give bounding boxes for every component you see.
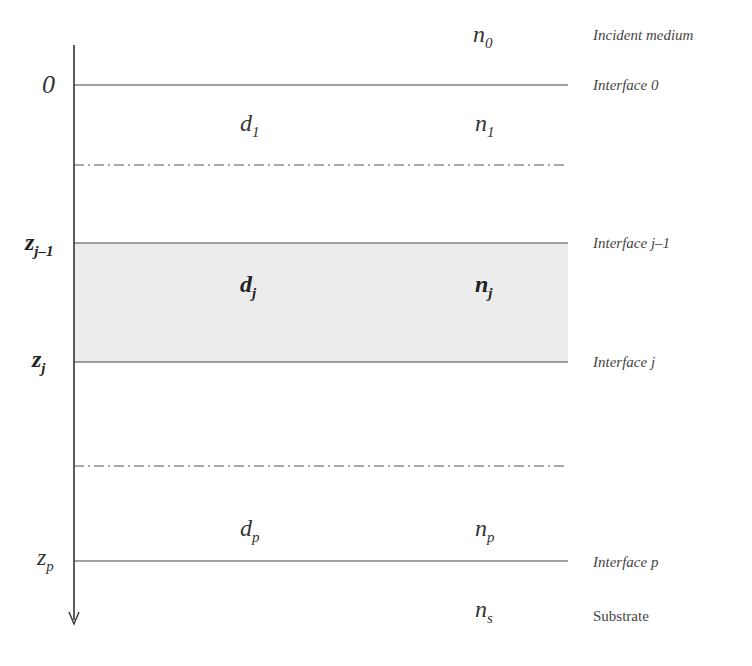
interface-0-label: Interface 0 — [593, 78, 658, 93]
dp-label: dp — [240, 516, 260, 540]
incident-medium-label: Incident medium — [593, 28, 693, 43]
np-label: np — [475, 516, 495, 540]
n-base: n — [475, 515, 487, 541]
z-sub: j — [41, 360, 45, 376]
d-base: d — [240, 515, 252, 541]
n-sub: 0 — [485, 35, 493, 51]
z-zero-label: 0 — [42, 72, 55, 98]
z-j-label: zj — [32, 347, 46, 371]
n0-label: n0 — [473, 22, 493, 46]
z-p-label: zp — [37, 545, 54, 569]
d-base: d — [240, 271, 252, 297]
n-base: n — [473, 21, 485, 47]
n-base: n — [475, 271, 488, 297]
interface-p-label: Interface p — [593, 555, 658, 570]
interface-j-label: Interface j — [593, 355, 655, 370]
z-j-minus-1-label: zj–1 — [25, 230, 54, 254]
z-base: z — [25, 229, 34, 255]
z-base: z — [32, 346, 41, 372]
n-base: n — [475, 596, 487, 622]
d-sub: j — [252, 285, 256, 301]
n-sub: 1 — [487, 124, 495, 140]
n-sub: j — [488, 285, 492, 301]
ns-label: ns — [475, 597, 493, 621]
interface-j-1-label: Interface j–1 — [593, 236, 670, 251]
z-sub: p — [46, 558, 54, 574]
dj-label: dj — [240, 272, 256, 296]
d1-label: d1 — [240, 111, 260, 135]
d-sub: 1 — [252, 124, 260, 140]
d-sub: p — [252, 529, 260, 545]
z-base: z — [37, 544, 46, 570]
n-sub: s — [487, 610, 493, 626]
n-base: n — [475, 110, 487, 136]
z-sub: j–1 — [34, 243, 53, 259]
substrate-label: Substrate — [593, 609, 649, 624]
n-sub: p — [487, 529, 495, 545]
layer-j-fill — [74, 243, 568, 362]
n1-label: n1 — [475, 111, 495, 135]
nj-label: nj — [475, 272, 493, 296]
d-base: d — [240, 110, 252, 136]
